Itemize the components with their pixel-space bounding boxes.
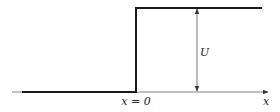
step-function-diagram: U x = 0 x: [0, 0, 280, 112]
x-axis-label: x: [263, 95, 270, 108]
step-location-label: x = 0: [121, 95, 150, 108]
step-function-line: [22, 8, 262, 92]
height-label: U: [200, 46, 210, 59]
